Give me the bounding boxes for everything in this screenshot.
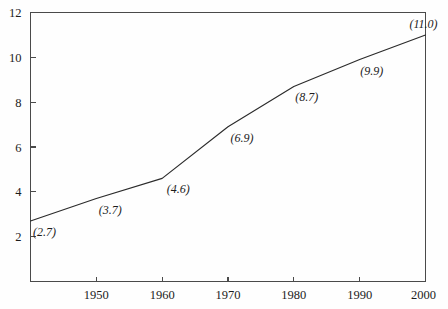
x-tick-label: 1960 [150, 288, 175, 302]
x-tick-label: 1990 [347, 288, 372, 302]
x-axis-tick-labels: 195019601970198019902000 [84, 288, 436, 302]
x-tick-label: 1950 [84, 288, 109, 302]
y-tick-label: 12 [9, 6, 22, 20]
x-tick-label: 1970 [216, 288, 241, 302]
axis-frame [31, 13, 426, 282]
y-tick-label: 4 [15, 185, 22, 199]
y-tick-label: 10 [9, 51, 22, 65]
data-point-label: (4.6) [167, 182, 190, 196]
y-axis-ticks [31, 57, 36, 236]
y-tick-label: 8 [15, 96, 21, 110]
data-point-label: (6.9) [231, 131, 254, 145]
data-point-label: (2.7) [33, 225, 56, 239]
data-point-label: (11.0) [409, 17, 437, 31]
data-point-annotations: (2.7)(3.7)(4.6)(6.9)(8.7)(9.9)(11.0) [33, 17, 438, 239]
line-chart: 24681012 195019601970198019902000 (2.7)(… [0, 0, 448, 309]
y-tick-label: 6 [15, 141, 21, 155]
data-point-label: (9.9) [360, 64, 383, 78]
plot-frame [31, 13, 426, 282]
x-axis-ticks [96, 277, 359, 282]
data-point-label: (3.7) [99, 203, 122, 217]
x-tick-label: 1980 [281, 288, 306, 302]
y-tick-label: 2 [15, 230, 21, 244]
chart-canvas: 24681012 195019601970198019902000 (2.7)(… [0, 0, 448, 309]
x-tick-label: 2000 [411, 288, 436, 302]
data-point-label: (8.7) [295, 90, 318, 104]
y-axis-tick-labels: 24681012 [9, 6, 22, 244]
